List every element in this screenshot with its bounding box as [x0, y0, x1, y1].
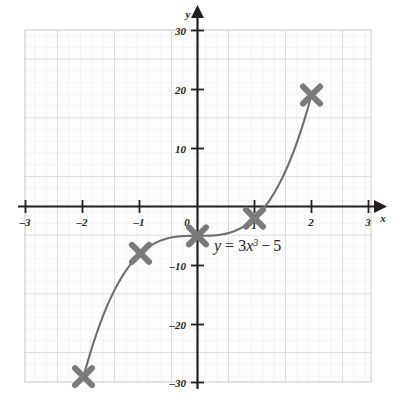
xtick-label--3: –3: [19, 216, 32, 228]
ytick-label--10: –10: [169, 260, 187, 272]
ytick-label-10: 10: [175, 143, 187, 155]
xtick-label--1: –1: [133, 216, 145, 228]
y-axis-label: y: [184, 8, 191, 20]
xtick-label-2: 2: [307, 216, 314, 228]
xtick-label-3: 3: [364, 216, 371, 228]
x-axis-label: x: [379, 212, 386, 224]
cubic-function-graph: –3 –2 –1 0 1 2 3 30 20 10 –10 –20 –30 x …: [0, 0, 394, 405]
ytick-label-30: 30: [174, 25, 187, 37]
ytick-label-20: 20: [174, 84, 187, 96]
xtick-label--2: –2: [76, 216, 89, 228]
graph-svg: –3 –2 –1 0 1 2 3 30 20 10 –10 –20 –30 x …: [0, 0, 394, 405]
ytick-label--30: –30: [169, 377, 187, 389]
ytick-label--20: –20: [169, 319, 187, 331]
